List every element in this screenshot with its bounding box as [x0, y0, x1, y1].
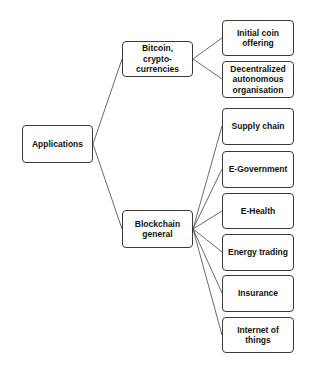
node-label: Supply chain	[232, 121, 285, 132]
node-initial-coin-offering: Initial coin offering	[222, 20, 294, 56]
diagram-canvas: Applications Bitcoin, crypto- currencies…	[0, 0, 311, 372]
node-label: Decentralized autonomous organisation	[230, 64, 285, 96]
node-decentralized-autonomous-organisation: Decentralized autonomous organisation	[222, 61, 294, 98]
node-blockchain-general: Blockchain general	[122, 210, 193, 248]
link-applications-blockchain	[93, 144, 122, 229]
link-applications-bitcoin	[93, 59, 122, 144]
node-insurance: Insurance	[222, 275, 294, 312]
node-bitcoin: Bitcoin, crypto- currencies	[122, 41, 193, 77]
node-e-government: E-Government	[222, 151, 294, 188]
link-blockchain-iot	[193, 229, 222, 335]
node-label: Insurance	[238, 288, 278, 299]
node-energy-trading: Energy trading	[222, 234, 294, 271]
link-bitcoin-ico	[193, 38, 222, 59]
node-label: E-Government	[229, 164, 288, 175]
link-bitcoin-dao	[193, 59, 222, 79]
node-label: Blockchain general	[135, 219, 180, 240]
node-e-health: E-Health	[222, 193, 294, 229]
link-blockchain-energy	[193, 229, 222, 252]
node-internet-of-things: Internet of things	[222, 317, 294, 353]
node-label: Energy trading	[228, 247, 288, 258]
node-label: Bitcoin, crypto- currencies	[136, 43, 179, 75]
node-label: Applications	[32, 139, 83, 150]
node-label: Initial coin offering	[237, 28, 279, 49]
node-label: Internet of things	[237, 325, 279, 346]
node-applications: Applications	[22, 125, 93, 163]
node-label: E-Health	[241, 206, 275, 217]
node-supply-chain: Supply chain	[222, 108, 294, 145]
